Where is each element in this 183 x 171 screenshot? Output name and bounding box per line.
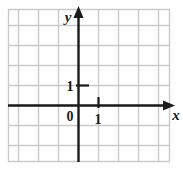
x-axis-label: x — [171, 107, 180, 123]
coordinate-plane-svg: y x 0 1 1 — [0, 0, 183, 171]
origin-label: 0 — [67, 109, 74, 124]
y-tick-label-1: 1 — [67, 79, 74, 94]
x-tick-label-1: 1 — [95, 112, 102, 127]
y-axis-label: y — [63, 9, 72, 25]
coordinate-plane-figure: y x 0 1 1 — [0, 0, 183, 171]
